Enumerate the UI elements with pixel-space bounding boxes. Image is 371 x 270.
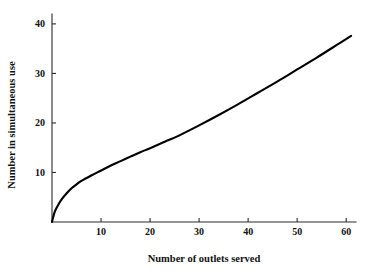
x-tick-label: 50 <box>292 226 302 237</box>
y-tick-label: 40 <box>35 18 45 29</box>
plot-axes <box>52 14 356 222</box>
data-series-group <box>52 36 351 222</box>
axis-lines <box>52 14 356 222</box>
x-tick-label: 60 <box>341 226 351 237</box>
y-tick-label: 20 <box>35 117 45 128</box>
y-tick-label: 30 <box>35 68 45 79</box>
y-tick-label: 10 <box>35 167 45 178</box>
y-axis-title: Number in simultaneous use <box>6 61 17 189</box>
x-tick-label: 20 <box>145 226 155 237</box>
y-tick-marks <box>52 24 56 173</box>
x-tick-label: 30 <box>194 226 204 237</box>
line-chart: 102030405060 10203040 Number of outlets … <box>0 0 371 270</box>
x-tick-label: 10 <box>96 226 106 237</box>
x-tick-label: 40 <box>243 226 253 237</box>
x-tick-labels: 102030405060 <box>96 226 351 237</box>
y-tick-labels: 10203040 <box>35 18 45 178</box>
x-axis-title: Number of outlets served <box>148 253 261 264</box>
chart-figure: 102030405060 10203040 Number of outlets … <box>0 0 371 270</box>
x-tick-marks <box>101 218 346 222</box>
data-curve-simultaneous-use <box>52 36 351 222</box>
